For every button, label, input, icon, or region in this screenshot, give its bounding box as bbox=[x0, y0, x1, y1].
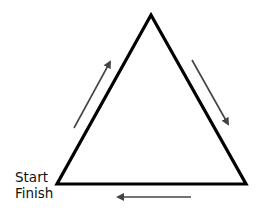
finish-label: Finish bbox=[15, 185, 53, 201]
triangle-shape bbox=[57, 15, 246, 184]
start-label: Start bbox=[15, 169, 48, 185]
arrow-down-right-side bbox=[192, 60, 228, 124]
